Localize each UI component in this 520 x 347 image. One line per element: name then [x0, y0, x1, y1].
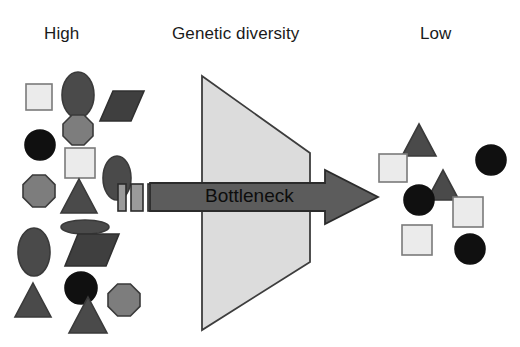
left-shape-octagon: [108, 284, 140, 316]
diagram-canvas: Bottleneck: [0, 0, 520, 347]
left-shape-ellipse: [62, 72, 94, 118]
bottleneck-diagram: High Genetic diversity Low Bottleneck: [0, 0, 520, 347]
left-shape-circle: [65, 272, 97, 304]
right-shape-square: [402, 225, 432, 255]
left-shape-parallelogram: [100, 91, 144, 121]
left-shape-square: [65, 148, 95, 178]
left-shape-triangle: [61, 179, 97, 213]
left-shape-ellipse: [61, 220, 109, 234]
left-shape-square: [26, 84, 52, 110]
bottleneck-arrow-label: Bottleneck: [205, 185, 294, 206]
left-shape-octagon: [23, 175, 55, 207]
left-shape-ellipse: [103, 156, 131, 200]
right-population-cluster: [379, 124, 506, 264]
left-shape-ellipse: [18, 228, 50, 276]
left-shape-triangle: [15, 283, 51, 317]
gate-bar: [118, 184, 126, 211]
right-shape-square: [379, 154, 407, 182]
right-shape-circle: [404, 185, 434, 215]
right-shape-circle: [476, 145, 506, 175]
right-shape-triangle: [402, 124, 436, 156]
gate-bar: [131, 184, 143, 211]
left-shape-circle: [25, 130, 55, 160]
left-shape-parallelogram: [65, 234, 119, 266]
left-shape-octagon: [63, 115, 93, 145]
right-shape-square: [453, 197, 483, 227]
right-shape-circle: [455, 234, 485, 264]
